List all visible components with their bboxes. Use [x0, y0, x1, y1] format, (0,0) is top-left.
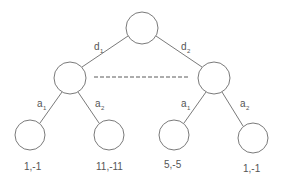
edge-label-d2-sub: 2 [187, 48, 191, 54]
edge-label-a2-right-sub: 2 [246, 105, 250, 111]
edge-label-d1: d [94, 41, 100, 52]
leaf-node-3 [159, 120, 189, 150]
leaf-node-1 [15, 120, 45, 150]
edge-label-a1-left-sub: 1 [43, 105, 47, 111]
decision-node-right [198, 62, 230, 94]
leaf-node-4 [238, 123, 268, 153]
payoff-leaf-2: 11,-11 [96, 161, 123, 172]
edge-root-left [82, 36, 128, 67]
leaf-node-2 [94, 120, 124, 150]
payoff-leaf-1: 1,-1 [24, 161, 42, 172]
game-tree-diagram: d 1 d 2 a 1 a 2 a 1 a 2 1,-1 11,-11 5,-5… [0, 0, 285, 178]
root-node [126, 12, 158, 44]
edge-label-a1-right-sub: 1 [187, 105, 191, 111]
edge-label-d2: d [181, 41, 187, 52]
edge-label-a2-left-sub: 2 [101, 105, 105, 111]
payoff-leaf-3: 5,-5 [164, 159, 182, 170]
payoff-leaf-4: 1,-1 [243, 163, 261, 174]
decision-node-left [54, 62, 86, 94]
edge-root-right [156, 36, 202, 67]
